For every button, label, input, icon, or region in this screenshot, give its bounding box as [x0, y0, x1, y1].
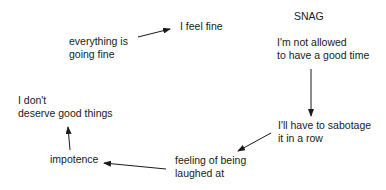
arrow-sabotage-to-laughed — [238, 133, 271, 151]
node-impotence: impotence — [50, 153, 98, 166]
node-feel-fine: I feel fine — [180, 20, 223, 33]
node-laughed-at: feeling of being laughed at — [175, 154, 246, 180]
arrow-everything-to-feelfine — [138, 29, 170, 37]
node-sabotage: I'll have to sabotage it in a row — [278, 119, 371, 145]
node-not-allowed: I'm not allowed to have a good time — [277, 36, 369, 62]
diagram-title: SNAG — [294, 10, 324, 23]
arrow-laughed-to-impotence — [104, 163, 166, 169]
node-everything-fine: everything is going fine — [69, 35, 128, 61]
flow-diagram: everything is going fine I feel fine SNA… — [0, 0, 386, 190]
node-dont-deserve: I don't deserve good things — [18, 94, 113, 120]
arrow-impotence-to-deserve — [68, 127, 70, 150]
